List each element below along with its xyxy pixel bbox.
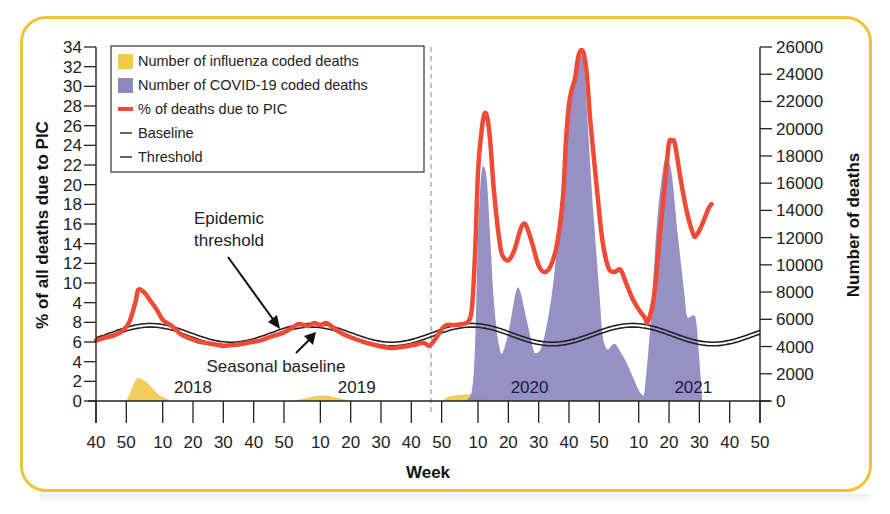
- x-tick-label: 20: [184, 433, 203, 452]
- year-label: 2018: [174, 378, 212, 397]
- right-tick-label: 2000: [776, 365, 814, 384]
- covid-deaths-area: [466, 55, 703, 401]
- left-tick-label: 34: [63, 38, 82, 57]
- right-tick-label: 14000: [776, 201, 823, 220]
- x-tick-label: 50: [117, 433, 136, 452]
- right-tick-label: 22000: [776, 92, 823, 111]
- left-tick-label: 0: [73, 392, 82, 411]
- right-axis-ticks: 0200040006000800010000120001400016000180…: [760, 38, 823, 411]
- epidemic-threshold-label: Epidemic: [194, 209, 264, 228]
- left-tick-label: 28: [63, 97, 82, 116]
- right-tick-label: 0: [776, 392, 785, 411]
- x-tick-label: 30: [529, 433, 548, 452]
- x-tick-label: 40: [244, 433, 263, 452]
- right-tick-label: 6000: [776, 310, 814, 329]
- legend-label: Number of COVID-19 coded deaths: [138, 77, 368, 93]
- x-tick-label: 40: [87, 433, 106, 452]
- x-axis-ticks: 4050102030405010203040501020304050102030…: [87, 401, 770, 452]
- x-tick-label: 30: [690, 433, 709, 452]
- x-tick-label: 20: [341, 433, 360, 452]
- right-tick-label: 12000: [776, 229, 823, 248]
- year-label: 2021: [674, 378, 712, 397]
- legend-label: Threshold: [138, 149, 202, 165]
- left-tick-label: 4: [73, 353, 82, 372]
- left-tick-label: 14: [63, 235, 82, 254]
- left-tick-label: 30: [63, 77, 82, 96]
- right-axis-title: Number of deaths: [844, 153, 863, 298]
- epidemic-threshold-arrowhead-icon: [268, 315, 280, 329]
- x-tick-label: 50: [275, 433, 294, 452]
- x-tick-label: 40: [402, 433, 421, 452]
- right-tick-label: 24000: [776, 65, 823, 84]
- chart-canvas: 02468410121416182022242628303234 0200040…: [0, 0, 890, 514]
- x-tick-label: 40: [720, 433, 739, 452]
- left-tick-label: 2: [73, 372, 82, 391]
- x-tick-label: 50: [751, 433, 770, 452]
- legend-label: Number of influenza coded deaths: [138, 53, 359, 69]
- left-tick-label: 16: [63, 215, 82, 234]
- legend-label: Baseline: [138, 125, 194, 141]
- right-tick-label: 20000: [776, 120, 823, 139]
- left-tick-label: 6: [73, 333, 82, 352]
- x-tick-label: 30: [372, 433, 391, 452]
- left-tick-label: 18: [63, 195, 82, 214]
- x-tick-label: 10: [153, 433, 172, 452]
- right-tick-label: 16000: [776, 174, 823, 193]
- x-tick-label: 20: [660, 433, 679, 452]
- annotations: Epidemic threshold Seasonal baseline: [194, 209, 345, 376]
- x-tick-label: 50: [590, 433, 609, 452]
- epidemic-threshold-label-line2: threshold: [194, 231, 264, 250]
- left-tick-label: 8: [73, 313, 82, 332]
- left-tick-label: 20: [63, 176, 82, 195]
- x-tick-label: 10: [311, 433, 330, 452]
- right-tick-label: 8000: [776, 283, 814, 302]
- left-tick-label: 24: [63, 136, 82, 155]
- x-tick-label: 10: [629, 433, 648, 452]
- legend-swatch-icon: [118, 54, 133, 69]
- x-tick-label: 10: [469, 433, 488, 452]
- left-axis-title: % of all deaths due to PIC: [33, 121, 52, 329]
- left-tick-label: 26: [63, 117, 82, 136]
- x-tick-label: 40: [560, 433, 579, 452]
- x-tick-label: 30: [214, 433, 233, 452]
- right-tick-label: 18000: [776, 147, 823, 166]
- legend: Number of influenza coded deathsNumber o…: [111, 46, 424, 172]
- year-label: 2020: [511, 378, 549, 397]
- seasonal-baseline-label: Seasonal baseline: [207, 357, 346, 376]
- legend-label: % of deaths due to PIC: [138, 101, 287, 117]
- right-tick-label: 4000: [776, 338, 814, 357]
- x-axis-title: Week: [406, 463, 451, 482]
- year-label: 2019: [338, 378, 376, 397]
- x-tick-label: 20: [499, 433, 518, 452]
- right-tick-label: 26000: [776, 38, 823, 57]
- left-tick-label: 32: [63, 58, 82, 77]
- legend-swatch-icon: [118, 78, 133, 93]
- right-tick-label: 10000: [776, 256, 823, 275]
- left-tick-label: 10: [63, 274, 82, 293]
- left-tick-label: 12: [63, 254, 82, 273]
- left-axis-ticks: 02468410121416182022242628303234: [63, 38, 96, 411]
- left-tick-label: 4: [73, 294, 82, 313]
- x-tick-label: 50: [432, 433, 451, 452]
- epidemic-threshold-arrow-icon: [228, 257, 275, 322]
- left-tick-label: 22: [63, 156, 82, 175]
